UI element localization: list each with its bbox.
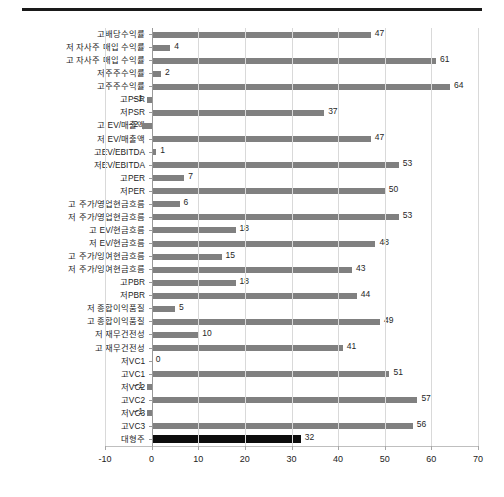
bar-value-label: 47 bbox=[375, 131, 384, 144]
x-tick-mark bbox=[478, 446, 479, 450]
bar bbox=[142, 123, 151, 129]
x-tick-label: 30 bbox=[286, 454, 296, 464]
bar-value-label: 41 bbox=[347, 340, 356, 353]
bar bbox=[152, 58, 436, 64]
bar-value-label: −1 bbox=[133, 92, 143, 105]
bar-value-label: 53 bbox=[403, 209, 412, 222]
bar-value-label: 7 bbox=[188, 170, 193, 183]
x-tick-mark bbox=[338, 446, 339, 450]
bar-value-label: 43 bbox=[356, 262, 365, 275]
x-tick-label: 50 bbox=[380, 454, 390, 464]
bar-value-label: −1 bbox=[133, 379, 143, 392]
gridline-70 bbox=[478, 28, 479, 446]
gridline-40 bbox=[338, 28, 339, 446]
gridline-20 bbox=[245, 28, 246, 446]
x-tick-label: 60 bbox=[426, 454, 436, 464]
bar-value-label: 56 bbox=[417, 418, 426, 431]
x-tick-label: 0 bbox=[149, 454, 154, 464]
bar-value-label: −2 bbox=[129, 118, 139, 131]
bar bbox=[152, 332, 199, 338]
bar bbox=[152, 306, 175, 312]
bar bbox=[152, 397, 418, 403]
x-tick-mark bbox=[245, 446, 246, 450]
gridline-10 bbox=[198, 28, 199, 446]
bar-value-label: 57 bbox=[421, 392, 430, 405]
bar-chart: 고배당수익률저 자사주 매입 수익률고 자사주 매입 수익률저주주수익률고주주수… bbox=[0, 0, 504, 497]
bar bbox=[152, 71, 161, 77]
bar bbox=[152, 293, 357, 299]
bar-value-label: 0 bbox=[156, 353, 161, 366]
bar bbox=[152, 214, 399, 220]
x-tick-label: 70 bbox=[473, 454, 483, 464]
bar-value-label: 4 bbox=[174, 40, 179, 53]
bar-value-label: 61 bbox=[440, 53, 449, 66]
x-axis-ticks: -10010203040506070 bbox=[0, 450, 504, 470]
gridline--10 bbox=[105, 28, 106, 446]
bar bbox=[152, 371, 390, 377]
bar-highlight bbox=[152, 435, 301, 443]
x-tick-mark bbox=[385, 446, 386, 450]
bar-value-label: 51 bbox=[393, 366, 402, 379]
bar bbox=[152, 280, 236, 286]
x-tick-mark bbox=[431, 446, 432, 450]
bar bbox=[152, 319, 380, 325]
gridline-60 bbox=[431, 28, 432, 446]
bar bbox=[152, 110, 325, 116]
x-tick-mark bbox=[198, 446, 199, 450]
bar bbox=[152, 188, 385, 194]
gridline-50 bbox=[385, 28, 386, 446]
x-tick-label: 40 bbox=[333, 454, 343, 464]
bar bbox=[152, 175, 185, 181]
bar-value-label: 44 bbox=[361, 288, 370, 301]
gridline-30 bbox=[292, 28, 293, 446]
x-tick-mark bbox=[105, 446, 106, 450]
bar bbox=[152, 162, 399, 168]
x-tick-mark bbox=[152, 446, 153, 450]
bar-value-label: 64 bbox=[454, 79, 463, 92]
bar bbox=[152, 227, 236, 233]
bar bbox=[152, 267, 352, 273]
x-tick-mark bbox=[292, 446, 293, 450]
bar bbox=[152, 84, 450, 90]
bar-value-label: 15 bbox=[226, 249, 235, 262]
bar-value-label: 50 bbox=[389, 183, 398, 196]
bar bbox=[152, 241, 376, 247]
bar-value-label: 1 bbox=[160, 144, 165, 157]
zero-gridline bbox=[152, 28, 153, 446]
bar-value-label: 32 bbox=[305, 431, 314, 444]
x-tick-label: 20 bbox=[240, 454, 250, 464]
x-tick-label: 10 bbox=[193, 454, 203, 464]
bar-value-label: 53 bbox=[403, 157, 412, 170]
bar bbox=[152, 254, 222, 260]
bar-value-label: 5 bbox=[179, 301, 184, 314]
bar bbox=[152, 45, 171, 51]
bar-value-label: −1 bbox=[133, 405, 143, 418]
bar-value-label: 37 bbox=[328, 105, 337, 118]
bar-value-label: 10 bbox=[202, 327, 211, 340]
plot-area: 47461264−137−247153750653184815431844549… bbox=[105, 28, 478, 446]
bar bbox=[152, 423, 413, 429]
bar-value-label: 6 bbox=[184, 196, 189, 209]
x-tick-label: -10 bbox=[98, 454, 111, 464]
bar bbox=[152, 201, 180, 207]
bar bbox=[152, 345, 343, 351]
bar-value-label: 47 bbox=[375, 27, 384, 40]
bar-value-label: 2 bbox=[165, 66, 170, 79]
